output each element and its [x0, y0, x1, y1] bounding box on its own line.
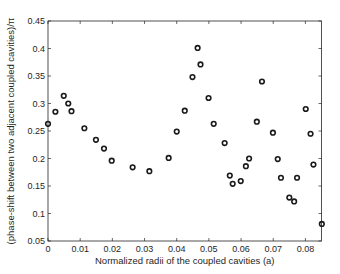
x-tick-label: 0.03 — [136, 244, 154, 254]
data-point — [69, 109, 74, 114]
data-point — [174, 129, 179, 134]
y-tick-label: 0.2 — [32, 154, 45, 164]
data-point — [303, 107, 308, 112]
data-point — [260, 79, 265, 84]
data-point — [238, 179, 243, 184]
data-point — [279, 175, 284, 180]
data-point — [130, 165, 135, 170]
y-tick-label: 0.05 — [27, 236, 45, 246]
data-point — [61, 94, 66, 99]
data-point — [227, 173, 232, 178]
x-tick-label: 0.01 — [71, 244, 89, 254]
x-tick-label: 0.06 — [232, 244, 250, 254]
data-point — [66, 101, 71, 106]
data-point — [308, 131, 313, 136]
plot-area — [48, 21, 322, 241]
x-tick-label: 0.02 — [104, 244, 122, 254]
data-point — [311, 162, 316, 167]
data-point — [230, 182, 235, 187]
data-point — [271, 130, 276, 135]
data-point — [166, 156, 171, 161]
data-point — [195, 46, 200, 51]
data-point — [94, 138, 99, 143]
data-point — [206, 96, 211, 101]
y-tick-label: 0.3 — [32, 99, 45, 109]
x-axis-ticks: 00.010.020.030.040.050.060.070.08 — [45, 21, 314, 254]
data-point — [222, 141, 227, 146]
data-point — [109, 158, 114, 163]
y-tick-label: 0.15 — [27, 181, 45, 191]
data-point — [255, 119, 260, 124]
x-tick-label: 0 — [45, 244, 50, 254]
data-point — [275, 157, 280, 162]
y-axis-label: (phase-shift between two adjacent couple… — [5, 17, 16, 244]
x-tick-label: 0.05 — [200, 244, 218, 254]
data-point — [82, 126, 87, 131]
x-axis-label: Normalized radii of the coupled cavities… — [95, 255, 275, 266]
y-tick-label: 0.4 — [32, 44, 45, 54]
y-tick-label: 0.1 — [32, 209, 45, 219]
x-tick-label: 0.08 — [297, 244, 315, 254]
data-points — [46, 46, 324, 227]
data-point — [295, 175, 300, 180]
y-tick-label: 0.25 — [27, 126, 45, 136]
y-tick-label: 0.35 — [27, 71, 45, 81]
data-point — [102, 146, 107, 151]
axes-box — [48, 21, 322, 241]
data-point — [211, 122, 216, 127]
scatter-chart: 00.010.020.030.040.050.060.070.08 0.050.… — [0, 0, 340, 274]
data-point — [247, 156, 252, 161]
y-tick-label: 0.45 — [27, 16, 45, 26]
data-point — [292, 199, 297, 204]
x-tick-label: 0.04 — [168, 244, 186, 254]
data-point — [190, 75, 195, 80]
data-point — [182, 108, 187, 113]
data-point — [244, 164, 249, 169]
x-tick-label: 0.07 — [264, 244, 282, 254]
data-point — [147, 169, 152, 174]
data-point — [198, 62, 203, 67]
data-point — [53, 109, 58, 114]
data-point — [287, 195, 292, 200]
